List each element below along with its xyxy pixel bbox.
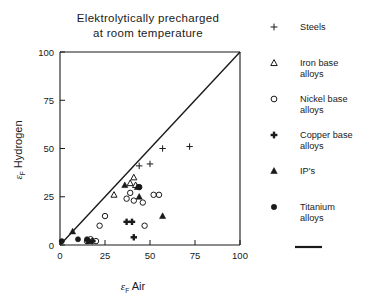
legend-marker-open-triangle-icon <box>271 60 277 66</box>
x-axis-text: Air <box>132 280 146 292</box>
one-to-one-reference-line <box>60 52 240 245</box>
data-point <box>86 239 91 244</box>
data-point <box>97 223 102 228</box>
series-steels <box>136 143 193 169</box>
legend-marker-filled-triangle-icon <box>271 168 277 174</box>
legend-marker-open-circle-icon <box>271 96 277 102</box>
data-point <box>159 145 165 151</box>
data-point <box>131 198 136 203</box>
legend-label-second-line: alloys <box>300 213 324 223</box>
x-tick-label: 50 <box>145 250 156 261</box>
data-point <box>140 200 145 205</box>
data-point <box>111 192 117 198</box>
data-point <box>136 194 142 200</box>
legend-label-second-line: alloys <box>300 141 324 151</box>
data-point <box>127 180 133 186</box>
legend-item-copper-base[interactable]: Copper basealloys <box>271 130 353 151</box>
chart-legend: SteelsIron basealloysNickel basealloysCo… <box>271 22 353 223</box>
data-point <box>127 190 132 195</box>
legend-marker-thin-plus-icon <box>271 24 278 31</box>
series-ip-s <box>70 182 166 244</box>
legend-marker-bold-plus-icon <box>271 132 278 139</box>
data-point <box>75 237 80 242</box>
series-copper-base-alloys <box>89 219 137 245</box>
data-point-layer <box>59 143 193 244</box>
x-tick-label: 100 <box>232 250 248 261</box>
legend-item-iron-base[interactable]: Iron basealloys <box>271 58 339 79</box>
x-tick-label: 25 <box>100 250 111 261</box>
data-point <box>122 182 128 188</box>
chart-figure: Elektrolytically precharged at room temp… <box>0 0 373 308</box>
legend-item-nickel-base[interactable]: Nickel basealloys <box>271 94 347 115</box>
x-axis-label: εF Air <box>121 280 146 294</box>
data-point <box>137 185 142 190</box>
legend-label: IP's <box>300 166 315 176</box>
legend-label: Nickel base <box>300 94 348 104</box>
data-point <box>102 213 107 218</box>
data-point <box>156 192 161 197</box>
legend-marker-filled-circle-icon <box>271 204 276 209</box>
legend-label: Iron base <box>300 58 338 68</box>
scatter-plot: Elektrolytically precharged at room temp… <box>0 0 373 308</box>
data-point <box>151 192 156 197</box>
data-point <box>147 161 153 167</box>
legend-label-second-line: alloys <box>300 105 324 115</box>
data-point <box>131 174 137 180</box>
y-axis-text: Hydrogen <box>12 120 24 168</box>
legend-item-ip-s[interactable]: IP's <box>271 166 316 176</box>
data-point <box>129 219 135 225</box>
y-tick-label: 0 <box>49 240 54 251</box>
data-point <box>131 234 137 240</box>
chart-title-line-1: Elektrolytically precharged <box>77 12 219 24</box>
chart-title-line-2: at room temperature <box>93 27 203 39</box>
legend-label: Steels <box>300 22 326 32</box>
x-tick-label: 0 <box>57 250 62 261</box>
series-nickel-base-alloys <box>84 184 161 243</box>
data-point <box>186 143 192 149</box>
x-tick-label: 75 <box>190 250 201 261</box>
legend-label-second-line: alloys <box>300 69 324 79</box>
legend-item-titanium[interactable]: Titaniumalloys <box>271 202 335 223</box>
y-tick-label: 100 <box>38 47 54 58</box>
legend-label: Titanium <box>300 202 335 212</box>
legend-label: Copper base <box>300 130 353 140</box>
data-point <box>59 239 64 244</box>
data-point <box>124 196 129 201</box>
data-point <box>142 223 147 228</box>
data-point <box>136 163 142 169</box>
y-tick-label: 75 <box>43 95 54 106</box>
svg-text:εF Air: εF Air <box>121 280 146 294</box>
legend-item-steels[interactable]: Steels <box>271 22 326 32</box>
y-tick-label: 25 <box>43 191 54 202</box>
y-tick-label: 50 <box>43 143 54 154</box>
svg-text:εF Hydrogen: εF Hydrogen <box>12 120 26 179</box>
series-titanium-alloys <box>59 185 142 244</box>
x-tick-labels: 0 25 50 75 100 <box>57 250 248 261</box>
y-tick-labels: 0 25 50 75 100 <box>38 47 54 251</box>
data-point <box>160 213 166 219</box>
y-axis-ticks <box>60 52 65 245</box>
y-axis-label: εF Hydrogen <box>12 120 26 179</box>
